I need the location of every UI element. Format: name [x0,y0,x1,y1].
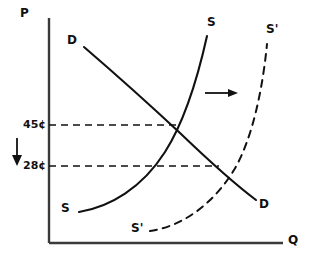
chart-canvas [0,0,309,262]
x-axis-label: Q [288,234,298,246]
supply-shift-label-bottom: S' [131,222,143,234]
y-tick-label-28: 28¢ [12,160,46,171]
supply-shift-curve [150,44,267,231]
y-tick-label-45: 45¢ [12,119,46,130]
supply-curve-label-bottom: S [61,202,70,214]
supply-shift-arrow [205,89,238,97]
demand-curve [84,47,256,200]
demand-curve-label-top: D [67,34,77,46]
y-axis-label: P [20,7,29,19]
supply-curve-label-top: S [207,16,216,28]
supply-shift-label-top: S' [266,23,278,35]
supply-curve [79,36,207,212]
supply-demand-chart: P Q 45¢ 28¢ D D S S S' S' [0,0,309,262]
demand-curve-label-bottom: D [259,198,269,210]
